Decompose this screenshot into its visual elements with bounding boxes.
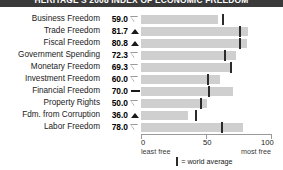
axis-most-free-label: most free [241,147,271,156]
world-average-tick-icon [176,157,178,166]
value-bar [141,63,232,72]
legend: = world average [176,156,233,167]
trend-down-icon [130,121,141,133]
world-average-tick [207,74,209,85]
page-title: HERITAGE'S 2008 INDEX OF ECONOMIC FREEDO… [35,0,249,6]
trend-down-icon [130,97,141,109]
world-average-tick [239,26,241,37]
row-value: 72.3 [102,49,128,61]
axis-label-0: 0 [141,138,145,147]
world-average-tick [208,86,210,97]
axis-endpoint-labels: least free most free [0,147,283,157]
row-plot [141,37,272,49]
world-average-tick [200,98,202,109]
chart-row: Investment Freedom60.0 [0,73,283,85]
axis-label-100: 100 [261,138,274,147]
chart-rows: Business Freedom59.0Trade Freedom81.7Fis… [0,13,283,133]
trend-up-icon [130,109,141,121]
world-average-tick [222,14,224,25]
trend-down-icon [130,61,141,73]
chart-row: Fdm. from Corruption36.0 [0,109,283,121]
trend-down-icon [130,49,141,61]
chart-row: Financial Freedom70.0 [0,85,283,97]
row-plot [141,73,272,85]
chart-row: Labor Freedom78.0 [0,121,283,133]
row-plot [141,121,272,133]
world-average-tick [230,62,232,73]
row-label: Trade Freedom [0,25,100,37]
row-value: 81.7 [102,25,128,37]
trend-up-icon [130,37,141,49]
world-average-tick [221,122,223,133]
economic-freedom-chart: HERITAGE'S 2008 INDEX OF ECONOMIC FREEDO… [0,0,283,170]
axis-label-50: 50 [203,138,211,147]
chart-title-bar: HERITAGE'S 2008 INDEX OF ECONOMIC FREEDO… [0,0,283,7]
row-label: Financial Freedom [0,85,100,97]
world-average-tick [195,110,197,121]
row-label: Monetary Freedom [0,61,100,73]
row-value: 59.0 [102,13,128,25]
row-value: 36.0 [102,109,128,121]
row-value: 80.8 [102,37,128,49]
axis-least-free-label: least free [141,147,171,156]
chart-row: Property Rights50.0 [0,97,283,109]
row-label: Labor Freedom [0,121,100,133]
value-bar [141,123,243,132]
value-bar [141,15,218,24]
value-bar [141,39,247,48]
world-average-tick [239,38,241,49]
row-label: Business Freedom [0,13,100,25]
value-bar [141,27,248,36]
row-label: Fiscal Freedom [0,37,100,49]
row-label: Property Rights [0,97,100,109]
row-plot [141,97,272,109]
row-value: 69.3 [102,61,128,73]
value-bar [141,87,233,96]
chart-row: Fiscal Freedom80.8 [0,37,283,49]
legend-label: = world average [181,157,232,166]
row-value: 50.0 [102,97,128,109]
row-plot [141,13,272,25]
row-plot [141,109,272,121]
trend-flat-icon [130,85,141,97]
chart-row: Monetary Freedom69.3 [0,61,283,73]
trend-down-icon [130,13,141,25]
row-label: Fdm. from Corruption [0,109,100,121]
value-bar [141,111,188,120]
world-average-tick [224,50,226,61]
chart-row: Business Freedom59.0 [0,13,283,25]
row-value: 78.0 [102,121,128,133]
row-plot [141,49,272,61]
value-bar [141,99,207,108]
trend-up-icon [130,25,141,37]
value-bar [141,51,236,60]
row-label: Government Spending [0,49,100,61]
row-plot [141,61,272,73]
chart-row: Government Spending72.3 [0,49,283,61]
trend-down-icon [130,73,141,85]
chart-row: Trade Freedom81.7 [0,25,283,37]
row-plot [141,85,272,97]
row-value: 60.0 [102,73,128,85]
row-value: 70.0 [102,85,128,97]
row-label: Investment Freedom [0,73,100,85]
row-plot [141,25,272,37]
